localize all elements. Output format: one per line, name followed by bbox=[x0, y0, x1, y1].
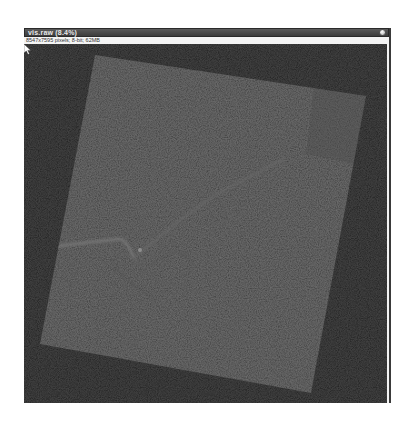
image-window[interactable]: vis.raw (8.4%) 8547x7595 pixels; 8-bit; … bbox=[24, 28, 391, 403]
satellite-image bbox=[24, 44, 387, 403]
mouse-pointer-icon bbox=[24, 44, 32, 55]
image-info-bar: 8547x7595 pixels; 8-bit; 62MB bbox=[24, 37, 389, 44]
close-icon[interactable] bbox=[379, 29, 386, 36]
image-info-text: 8547x7595 pixels; 8-bit; 62MB bbox=[26, 36, 100, 44]
image-canvas[interactable] bbox=[24, 44, 387, 403]
